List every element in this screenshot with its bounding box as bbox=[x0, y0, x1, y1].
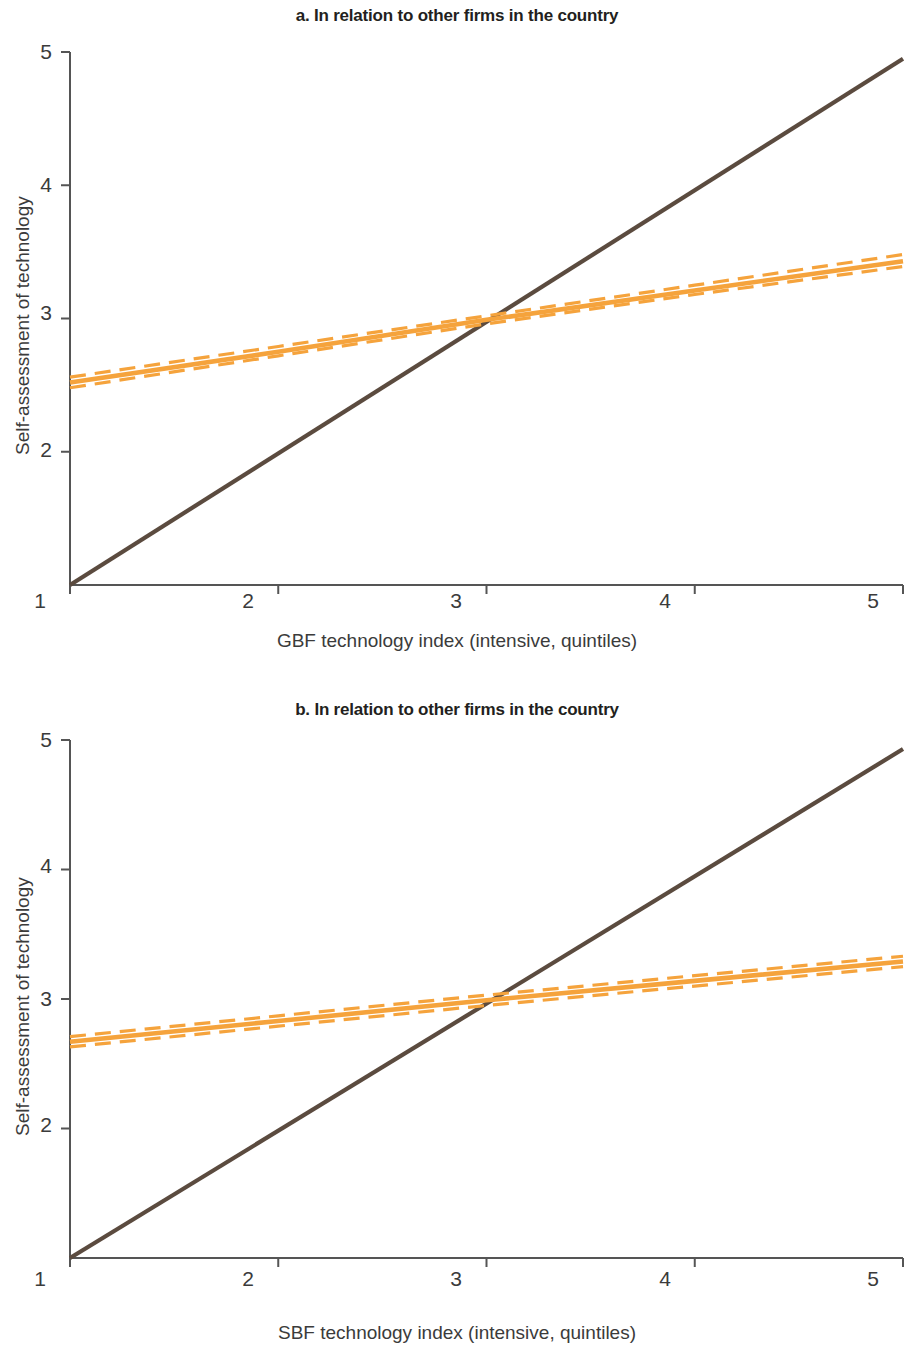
panel-a-xtick-4: 4 bbox=[645, 589, 685, 613]
panel-a-ytick-3: 3 bbox=[22, 301, 52, 325]
figure-two-panel-technology-self-assessment: a. In relation to other firms in the cou… bbox=[0, 0, 914, 1352]
panel-b-ytick-4: 4 bbox=[22, 854, 52, 878]
panel-a-y-axis-title: Self-assessment of technology bbox=[12, 196, 34, 455]
panel-a-x-axis-title: GBF technology index (intensive, quintil… bbox=[0, 630, 914, 652]
panel-b-xtick-4: 4 bbox=[645, 1267, 685, 1291]
panel-b-ytick-2: 2 bbox=[22, 1113, 52, 1137]
panel-b-ytick-5: 5 bbox=[22, 728, 52, 752]
panel-b: b. In relation to other firms in the cou… bbox=[0, 676, 914, 1352]
panel-b-xtick-1: 1 bbox=[20, 1267, 60, 1291]
panel-a-plot bbox=[0, 0, 914, 676]
panel-b-xtick-3: 3 bbox=[436, 1267, 476, 1291]
panel-a-ytick-4: 4 bbox=[22, 173, 52, 197]
panel-a-xtick-3: 3 bbox=[436, 589, 476, 613]
panel-b-x-axis-title: SBF technology index (intensive, quintil… bbox=[0, 1322, 914, 1344]
panel-a-ytick-2: 2 bbox=[22, 438, 52, 462]
panel-b-xtick-5: 5 bbox=[853, 1267, 893, 1291]
panel-a-xtick-2: 2 bbox=[228, 589, 268, 613]
panel-a-xtick-1: 1 bbox=[20, 589, 60, 613]
panel-a: a. In relation to other firms in the cou… bbox=[0, 0, 914, 676]
panel-b-ytick-3: 3 bbox=[22, 987, 52, 1011]
panel-a-ytick-5: 5 bbox=[22, 40, 52, 64]
panel-b-xtick-2: 2 bbox=[228, 1267, 268, 1291]
panel-b-plot bbox=[0, 676, 914, 1352]
panel-a-xtick-5: 5 bbox=[853, 589, 893, 613]
